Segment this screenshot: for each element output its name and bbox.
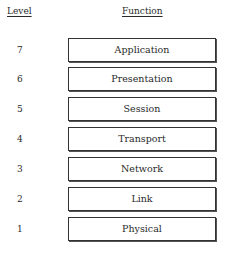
level-number: 4: [17, 127, 23, 151]
level-number: 5: [17, 97, 23, 121]
layer-row-7: 7 Application: [0, 38, 227, 62]
layer-row-6: 6 Presentation: [0, 67, 227, 91]
layer-box-presentation: Presentation: [68, 67, 216, 91]
level-number: 6: [17, 67, 23, 91]
header-level: Level: [7, 6, 32, 16]
level-number: 3: [17, 157, 23, 181]
layer-box-link: Link: [68, 187, 216, 211]
layer-row-1: 1 Physical: [0, 217, 227, 241]
layer-box-transport: Transport: [68, 127, 216, 151]
level-number: 1: [17, 217, 23, 241]
level-number: 7: [17, 38, 23, 62]
layer-row-5: 5 Session: [0, 97, 227, 121]
layer-box-physical: Physical: [68, 217, 216, 241]
layer-box-session: Session: [68, 97, 216, 121]
layer-box-application: Application: [68, 38, 216, 62]
layer-row-3: 3 Network: [0, 157, 227, 181]
layer-box-network: Network: [68, 157, 216, 181]
level-number: 2: [17, 187, 23, 211]
layer-row-2: 2 Link: [0, 187, 227, 211]
layer-row-4: 4 Transport: [0, 127, 227, 151]
header-function: Function: [122, 6, 163, 16]
